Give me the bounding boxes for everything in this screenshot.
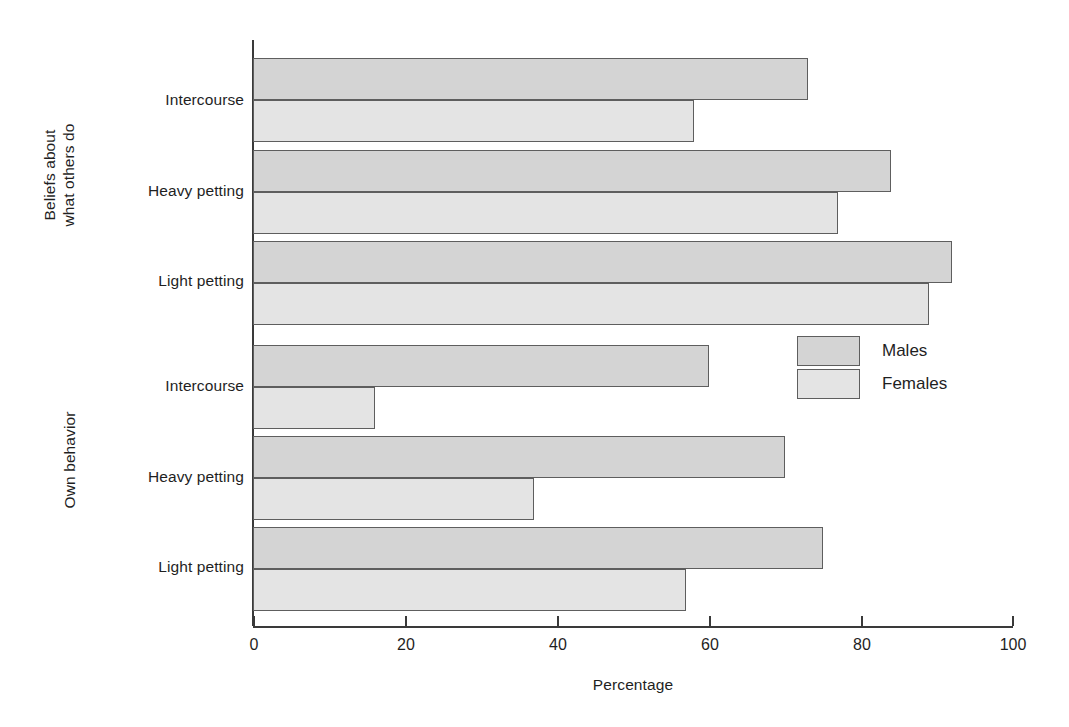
bar-beliefs-light-petting-females bbox=[253, 283, 929, 325]
category-label-own-intercourse: Intercourse bbox=[14, 377, 244, 395]
category-label-own-heavy-petting: Heavy petting bbox=[14, 468, 244, 486]
x-tick-40 bbox=[557, 616, 559, 626]
x-axis-title: Percentage bbox=[253, 676, 1013, 694]
legend-swatch-females-icon bbox=[797, 369, 860, 399]
x-tick-label-20: 20 bbox=[397, 636, 415, 654]
bar-own-heavy-petting-females bbox=[253, 478, 534, 520]
bar-beliefs-intercourse-males bbox=[253, 58, 808, 100]
legend: Males Females bbox=[797, 334, 947, 400]
category-label-beliefs-intercourse: Intercourse bbox=[14, 91, 244, 109]
bar-beliefs-light-petting-males bbox=[253, 241, 952, 283]
bar-beliefs-heavy-petting-males bbox=[253, 150, 891, 192]
plot-area bbox=[253, 40, 1013, 626]
x-tick-0 bbox=[253, 616, 255, 626]
x-tick-label-40: 40 bbox=[549, 636, 567, 654]
bar-beliefs-intercourse-females bbox=[253, 100, 694, 142]
bar-beliefs-heavy-petting-females bbox=[253, 192, 838, 234]
x-tick-label-0: 0 bbox=[250, 636, 259, 654]
legend-entry-males: Males bbox=[797, 334, 947, 367]
bar-own-intercourse-females bbox=[253, 387, 375, 429]
x-tick-label-100: 100 bbox=[1000, 636, 1027, 654]
x-tick-20 bbox=[405, 616, 407, 626]
category-label-beliefs-light-petting: Light petting bbox=[14, 272, 244, 290]
category-label-own-light-petting: Light petting bbox=[14, 558, 244, 576]
x-axis: 0 20 40 60 80 100 bbox=[253, 626, 1013, 628]
category-label-column: Intercourse Heavy petting Light petting … bbox=[0, 0, 244, 727]
bar-own-light-petting-females bbox=[253, 569, 686, 611]
x-tick-label-80: 80 bbox=[853, 636, 871, 654]
legend-entry-females: Females bbox=[797, 367, 947, 400]
category-label-beliefs-heavy-petting: Heavy petting bbox=[14, 182, 244, 200]
x-tick-100 bbox=[1012, 616, 1014, 626]
bar-own-intercourse-males bbox=[253, 345, 709, 387]
bar-own-light-petting-males bbox=[253, 527, 823, 569]
x-tick-60 bbox=[709, 616, 711, 626]
x-tick-label-60: 60 bbox=[701, 636, 719, 654]
x-tick-80 bbox=[861, 616, 863, 626]
legend-label-females: Females bbox=[882, 374, 947, 394]
bar-chart: Beliefs about what others do Own behavio… bbox=[0, 0, 1069, 727]
legend-label-males: Males bbox=[882, 341, 927, 361]
legend-swatch-males-icon bbox=[797, 336, 860, 366]
bar-own-heavy-petting-males bbox=[253, 436, 785, 478]
